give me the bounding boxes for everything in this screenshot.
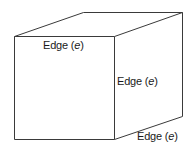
label-word: Edge bbox=[117, 75, 142, 87]
front-face bbox=[15, 37, 115, 140]
side-edge-label: Edge (e) bbox=[117, 75, 158, 87]
label-word: Edge bbox=[43, 39, 68, 51]
label-paren: ) bbox=[80, 39, 83, 51]
depth-edge-label: Edge (e) bbox=[137, 130, 178, 142]
label-paren: ) bbox=[174, 130, 177, 142]
top-face bbox=[15, 13, 183, 37]
top-edge-label: Edge (e) bbox=[43, 39, 84, 51]
label-word: Edge bbox=[137, 130, 162, 142]
label-paren: ) bbox=[154, 75, 157, 87]
